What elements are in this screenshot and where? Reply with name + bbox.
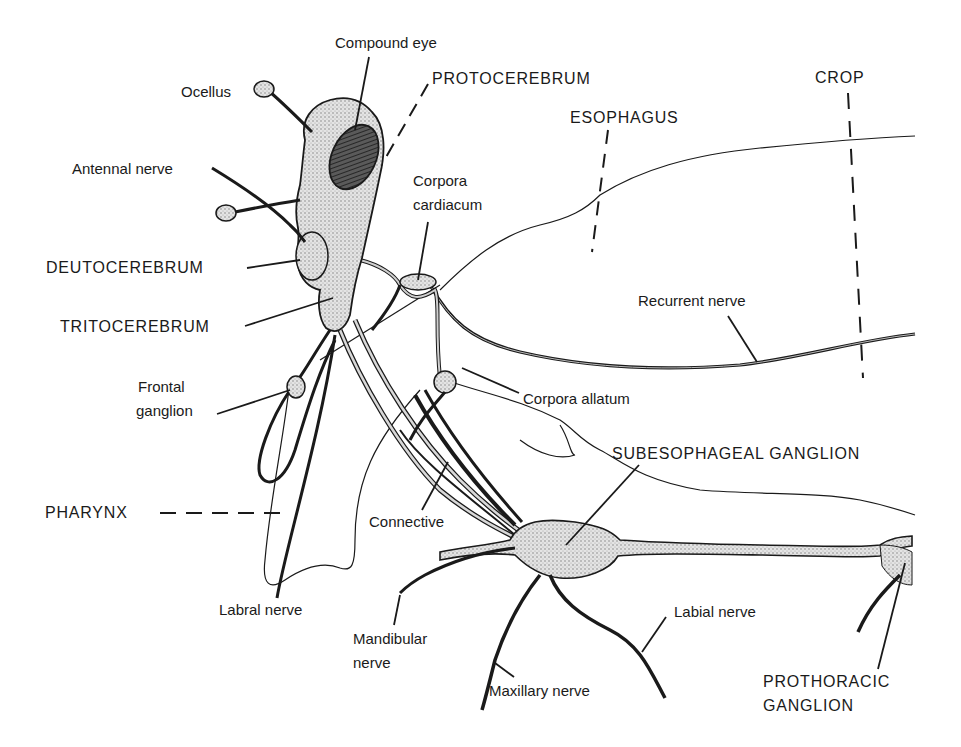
labial-nerve bbox=[550, 575, 665, 698]
label-esophagus: ESOPHAGUS bbox=[570, 108, 679, 127]
label-protocerebrum: PROTOCEREBRUM bbox=[432, 69, 591, 88]
corpora-allatum bbox=[434, 371, 456, 393]
label-labral-nerve: Labral nerve bbox=[219, 601, 302, 619]
label-corpora-cardiacum-2: cardiacum bbox=[413, 196, 482, 214]
crop-pointer bbox=[848, 93, 863, 378]
label-pharynx: PHARYNX bbox=[45, 503, 128, 522]
label-corpora-cardiacum-1: Corpora bbox=[413, 172, 467, 190]
label-tritocerebrum: TRITOCEREBRUM bbox=[60, 317, 210, 336]
label-mandibular-nerve-1: Mandibular bbox=[353, 630, 427, 648]
ocellus-upper bbox=[254, 81, 274, 97]
label-ocellus: Ocellus bbox=[181, 83, 231, 101]
label-antennal-nerve: Antennal nerve bbox=[72, 160, 173, 178]
labral-nerve bbox=[277, 335, 335, 598]
frontal-ganglion-loop bbox=[259, 330, 335, 482]
deutocerebrum-lobe bbox=[296, 232, 328, 280]
label-prothoracic-ganglion-1: PROTHORACIC bbox=[763, 672, 890, 691]
label-labial-nerve: Labial nerve bbox=[674, 603, 756, 621]
label-frontal-ganglion-2: ganglion bbox=[136, 402, 193, 420]
label-subesophageal-ganglion: SUBESOPHAGEAL GANGLION bbox=[612, 444, 860, 463]
frontal-ganglion bbox=[287, 376, 305, 398]
label-prothoracic-ganglion-2: GANGLION bbox=[763, 696, 854, 715]
label-crop: CROP bbox=[815, 68, 864, 87]
ocellus-stalk-upper bbox=[270, 92, 312, 132]
label-mandibular-nerve-2: nerve bbox=[353, 654, 391, 672]
label-compound-eye: Compound eye bbox=[335, 34, 437, 52]
nervous-system-illustration bbox=[0, 0, 961, 747]
label-recurrent-nerve: Recurrent nerve bbox=[638, 292, 746, 310]
esophagus-outline bbox=[440, 136, 915, 290]
label-maxillary-nerve: Maxillary nerve bbox=[489, 682, 590, 700]
label-connective: Connective bbox=[369, 513, 444, 531]
label-corpora-allatum: Corpora allatum bbox=[523, 390, 630, 408]
label-frontal-ganglion-1: Frontal bbox=[138, 378, 185, 396]
ocellus-lower bbox=[216, 205, 236, 221]
label-deutocerebrum: DEUTOCEREBRUM bbox=[46, 258, 204, 277]
